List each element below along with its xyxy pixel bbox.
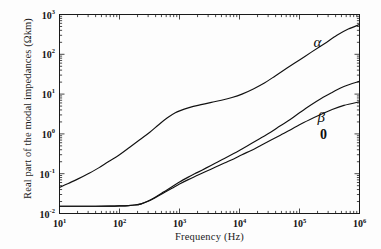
data-curves bbox=[60, 25, 360, 207]
curve-label-0: 0 bbox=[320, 127, 327, 143]
y-tick-label-4: 102 bbox=[28, 49, 55, 60]
y-tick-label-3: 101 bbox=[28, 89, 55, 100]
x-tick-label-3: 104 bbox=[233, 218, 246, 229]
y-tick-label-5: 103 bbox=[28, 9, 55, 20]
y-tick-label-0: 10-2 bbox=[28, 208, 55, 219]
curve-label-α: α bbox=[314, 34, 322, 51]
x-tick-label-1: 102 bbox=[113, 218, 126, 229]
y-tick-label-1: 10-1 bbox=[28, 168, 55, 179]
x-tick-label-4: 105 bbox=[293, 218, 306, 229]
curve-0 bbox=[60, 102, 360, 206]
x-tick-label-2: 103 bbox=[173, 218, 186, 229]
x-tick-label-0: 101 bbox=[53, 218, 66, 229]
y-tick-label-2: 100 bbox=[28, 128, 55, 139]
x-axis-title: Frequency (Hz) bbox=[59, 231, 360, 242]
x-tick-label-5: 106 bbox=[353, 218, 366, 229]
curve-label-β: β bbox=[317, 109, 324, 126]
figure-chart-modal-impedances: Real part of the modal impedances (Ωkm) … bbox=[0, 0, 381, 249]
curve-β bbox=[60, 81, 360, 206]
